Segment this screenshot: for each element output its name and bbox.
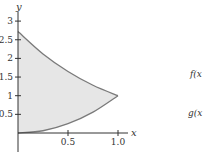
shaded-region (18, 32, 118, 133)
area-between-curves-chart: 0.511.522.53 0.51.0 x y f(x g(x (0, 0, 211, 152)
y-axis-label: y (15, 1, 22, 12)
y-tick-label: 0.5 (0, 109, 13, 119)
f-label: f(x (189, 69, 202, 79)
x-tick-label: 0.5 (61, 137, 76, 147)
x-tick-label: 1.0 (111, 137, 126, 147)
y-tick-label: 3 (7, 16, 13, 26)
y-tick-label: 1.5 (0, 72, 13, 82)
y-tick-label: 1 (7, 91, 13, 101)
y-tick-label: 2 (7, 53, 13, 63)
g-label: g(x (188, 108, 202, 118)
y-tick-label: 2.5 (0, 35, 13, 45)
x-axis-label: x (131, 127, 137, 138)
